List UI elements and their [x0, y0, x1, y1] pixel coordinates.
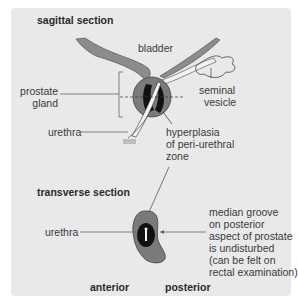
groove-label-line5: (can be felt on — [209, 254, 276, 266]
bladder-label: bladder — [138, 42, 173, 54]
hyperplasia-label-line1: hyperplasia — [166, 126, 220, 138]
urethra-label-sagittal: urethra — [48, 126, 81, 138]
groove-label-line2: on posterior — [209, 218, 264, 230]
transverse-section-title: transverse section — [37, 186, 130, 198]
groove-label-line1: median groove — [209, 206, 278, 218]
anterior-label: anterior — [90, 281, 129, 293]
seminal-label-line2: vesicle — [204, 96, 236, 108]
hyperplasia-label-line3: zone — [166, 150, 189, 162]
prostate-label-line1: prostate — [18, 85, 58, 97]
groove-label-line3: aspect of prostate — [209, 230, 292, 242]
urethra-label-transverse: urethra — [45, 226, 78, 238]
groove-label-line4: is undisturbed — [209, 242, 274, 254]
prostate-bracket — [119, 72, 123, 117]
hyperplasia-label-line2: of peri-urethral — [166, 138, 234, 150]
urethral-meatus — [123, 139, 136, 144]
groove-label-line6: rectal examination) — [209, 266, 298, 278]
sagittal-section-title: sagittal section — [37, 14, 113, 26]
seminal-label-line1: seminal — [199, 84, 235, 96]
prostate-label-line2: gland — [18, 97, 58, 109]
posterior-label: posterior — [165, 281, 211, 293]
prostate-transverse — [133, 211, 166, 263]
